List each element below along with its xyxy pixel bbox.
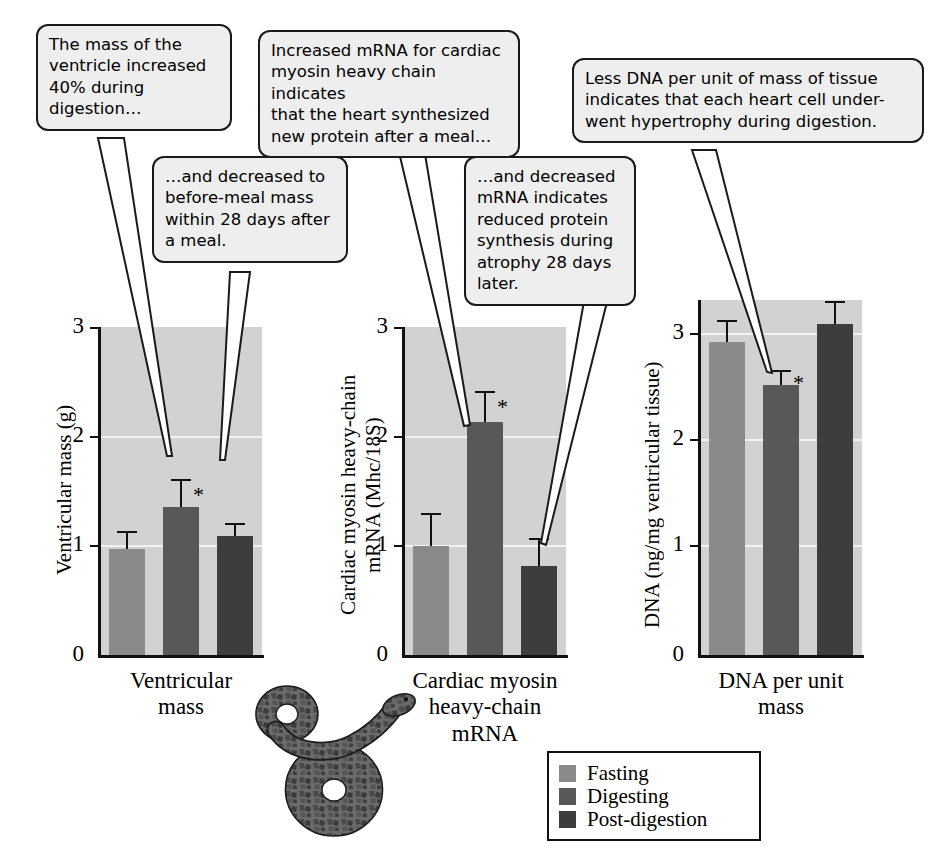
chart3-bar-postdigestion xyxy=(817,324,853,655)
chart3-ytick-1 xyxy=(690,545,700,547)
chart3-ytick-3 xyxy=(690,333,700,335)
chart3-ytick-2 xyxy=(690,439,700,441)
chart3-yticklabel-2: 2 xyxy=(658,425,684,451)
legend-item-digesting: Digesting xyxy=(559,785,745,807)
legend-item-postdigestion: Post-digestion xyxy=(559,808,745,830)
chart3-yticklabel-0: 0 xyxy=(658,641,684,667)
callout-dna-hypertrophy: Less DNA per unit of mass of tissue indi… xyxy=(572,58,924,143)
chart3-errorbar-digesting xyxy=(771,370,791,385)
chart3-x-axis-label: DNA per unit mass xyxy=(686,668,876,721)
chart3-x-axis xyxy=(698,655,864,658)
chart3-yticklabel-3: 3 xyxy=(658,319,684,345)
chart3-yticklabel-1: 1 xyxy=(658,531,684,557)
chart3-y-axis xyxy=(698,300,701,658)
legend-swatch-fasting xyxy=(559,765,576,782)
callout-ventricle-increase: The mass of the ventricle increased 40% … xyxy=(36,24,232,131)
legend-swatch-postdigestion xyxy=(559,811,576,828)
chart3-bar-digesting xyxy=(763,385,799,655)
legend-swatch-digesting xyxy=(559,788,576,805)
chart3-errorbar-postdigestion xyxy=(825,301,845,324)
legend-label-fasting: Fasting xyxy=(587,762,649,784)
legend-item-fasting: Fasting xyxy=(559,762,745,784)
legend-label-digesting: Digesting xyxy=(587,785,669,807)
callout-mrna-decrease: …and decreased mRNA indicates reduced pr… xyxy=(464,156,636,306)
callout-ventricle-decrease: …and decreased to before-meal mass withi… xyxy=(152,156,348,263)
chart3-bar-fasting xyxy=(709,342,745,655)
chart3-y-axis-label: DNA (ng/mg ventricular tissue) xyxy=(640,345,666,645)
legend-label-postdigestion: Post-digestion xyxy=(587,808,707,830)
coiled-python-illustration xyxy=(242,678,422,853)
series-legend: Fasting Digesting Post-digestion xyxy=(547,751,761,841)
chart3-significance-star: * xyxy=(793,372,804,394)
chart3-errorbar-fasting xyxy=(717,320,737,342)
callout-mrna-increase: Increased mRNA for cardiac myosin heavy … xyxy=(258,30,520,158)
